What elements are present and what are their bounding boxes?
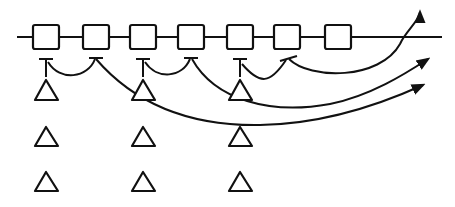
arc-6-to-5 <box>242 60 286 79</box>
t-marker-1 <box>39 59 53 77</box>
triangle-r3-c2 <box>132 172 155 191</box>
triangles <box>35 80 252 191</box>
triangle-r1-c1 <box>35 80 58 100</box>
t-marker-3 <box>136 59 150 77</box>
triangle-r1-c2 <box>132 80 155 100</box>
arc-4-to-exit <box>192 59 428 107</box>
box-2 <box>83 25 109 49</box>
triangle-r2-c3 <box>229 127 252 146</box>
v-marker-6 <box>280 56 297 61</box>
triangle-r2-c1 <box>35 127 58 146</box>
box-3 <box>130 25 156 49</box>
flow-diagram <box>0 0 455 207</box>
box-5 <box>227 25 253 49</box>
triangle-r2-c2 <box>132 127 155 146</box>
triangle-r1-c3 <box>229 80 252 100</box>
box-4 <box>178 25 204 49</box>
box-6 <box>274 25 300 49</box>
arc-6-to-exit-up <box>289 12 420 73</box>
box-7 <box>325 25 351 49</box>
triangle-r3-c1 <box>35 172 58 191</box>
arc-2-to-1 <box>48 59 95 75</box>
triangle-r3-c3 <box>229 172 252 191</box>
box-1 <box>33 25 59 49</box>
arc-4-to-3 <box>145 59 190 74</box>
